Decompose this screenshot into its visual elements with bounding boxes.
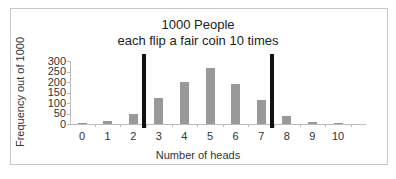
- x-tick-label: 1: [98, 130, 118, 142]
- x-tick-label: 6: [226, 130, 246, 142]
- bar-10: [334, 123, 343, 124]
- chart-subtitle: each flip a fair coin 10 times: [0, 33, 396, 49]
- bar-0: [78, 123, 87, 124]
- x-tick-mark: [146, 124, 147, 127]
- x-tick-label: 10: [328, 130, 348, 142]
- y-tick-label: 0: [36, 119, 66, 130]
- chart-title: 1000 People: [0, 17, 396, 33]
- x-axis-line: [70, 124, 366, 125]
- bar-5: [206, 68, 215, 124]
- x-tick-label: 7: [251, 130, 271, 142]
- x-tick-mark: [351, 124, 352, 127]
- x-tick-mark: [248, 124, 249, 127]
- x-tick-mark: [325, 124, 326, 127]
- x-tick-mark: [300, 124, 301, 127]
- x-tick-mark: [274, 124, 275, 127]
- x-tick-label: 2: [123, 130, 143, 142]
- x-tick-label: 8: [277, 130, 297, 142]
- bar-8: [282, 116, 291, 124]
- upper-cutoff-line: [270, 54, 274, 128]
- bar-6: [231, 84, 240, 124]
- bar-7: [257, 100, 266, 124]
- bar-1: [103, 121, 112, 124]
- x-tick-label: 0: [72, 130, 92, 142]
- bar-2: [129, 114, 138, 124]
- bar-4: [180, 82, 189, 124]
- x-tick-label: 9: [302, 130, 322, 142]
- x-tick-label: 3: [149, 130, 169, 142]
- y-axis-line: [70, 61, 71, 124]
- x-tick-mark: [120, 124, 121, 127]
- lower-cutoff-line: [142, 54, 146, 128]
- bar-3: [154, 98, 163, 124]
- x-tick-mark: [197, 124, 198, 127]
- x-axis-label: Number of heads: [0, 149, 396, 161]
- x-tick-mark: [223, 124, 224, 127]
- x-tick-label: 4: [174, 130, 194, 142]
- y-axis-label: Frequency out of 1000: [14, 37, 26, 147]
- bar-9: [308, 122, 317, 124]
- x-tick-mark: [172, 124, 173, 127]
- x-tick-label: 5: [200, 130, 220, 142]
- x-tick-mark: [95, 124, 96, 127]
